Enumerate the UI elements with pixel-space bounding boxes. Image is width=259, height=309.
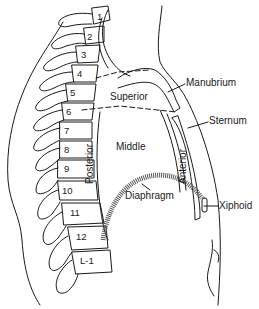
mediastinum-diagram: 1 2 3 4 5 6 7 8 9 10 11 12 L-1 Superior …: [0, 0, 259, 309]
vertebra-label-t3: 3: [81, 50, 86, 60]
structure-label-sternum: Sternum: [209, 116, 247, 126]
vertebra-label-t4: 4: [77, 69, 82, 79]
region-label-middle: Middle: [116, 142, 145, 152]
vertebra-label-t9: 9: [64, 164, 69, 174]
structure-label-diaphragm: Diaphragm: [125, 191, 174, 201]
sternal-angle-line: [82, 106, 176, 112]
xiphoid-shape: [202, 198, 207, 212]
vertebra-label-t8: 8: [64, 145, 69, 155]
vertebra-label-t7: 7: [64, 126, 69, 136]
structure-label-manubrium: Manubrium: [186, 78, 236, 88]
vertebra-label-t10: 10: [62, 186, 73, 196]
diagram-drawing: [0, 0, 259, 309]
thoracic-inlet-line: [96, 70, 150, 78]
vertebra-label-t11: 11: [70, 208, 80, 218]
vertebra-label-t5: 5: [70, 88, 75, 98]
vertebra-label-t1: 1: [97, 12, 102, 22]
region-label-anterior: Anterior: [178, 149, 188, 184]
artist-signature: [207, 240, 218, 296]
vertebra-label-t2: 2: [87, 32, 92, 42]
region-label-posterior: Posterior: [85, 144, 95, 184]
vertebra-label-t12: 12: [76, 232, 87, 242]
structure-label-xiphoid: Xiphoid: [219, 201, 252, 211]
region-label-superior: Superior: [110, 92, 148, 102]
vertebra-label-t6: 6: [66, 107, 71, 117]
diaphragm-shape: [103, 175, 202, 240]
vertebra-label-l1: L-1: [80, 256, 94, 266]
posterior-boundary: [97, 112, 108, 240]
